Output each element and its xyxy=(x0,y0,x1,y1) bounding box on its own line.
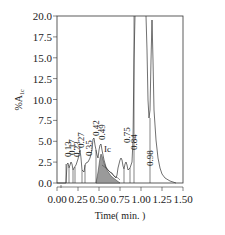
y-tick-5: 5.0 xyxy=(38,135,52,147)
x-tick-1: 1.00 xyxy=(131,193,151,205)
y-tick-20: 20.0 xyxy=(33,10,53,22)
x-tick-0-25: 0.25 xyxy=(68,193,88,205)
x-tick-1-5: 1.50 xyxy=(173,193,193,205)
x-tick-0-75: 0.75 xyxy=(110,193,130,205)
peak-label-0-35: 0.35 xyxy=(84,140,94,156)
x-axis-title: Time( min. ) xyxy=(95,210,145,222)
y-tick-7-5: 7.5 xyxy=(38,114,52,126)
peak-label-0-98: 0.98 xyxy=(145,150,155,166)
y-tick-12-5: 12.5 xyxy=(33,73,53,85)
x-tick-labels: 0.00 0.25 0.50 0.75 1.00 1.25 1.50 xyxy=(47,193,193,205)
x-tick-1-25: 1.25 xyxy=(152,193,172,205)
y-tick-labels: 20.0 17.5 15.0 12.5 10.0 7.5 5.0 2.5 0.0 xyxy=(33,10,53,189)
x-tick-0-5: 0.50 xyxy=(89,193,109,205)
shaded-a1c-peak xyxy=(96,154,120,183)
y-axis-title: %A1c xyxy=(13,89,25,111)
peak-label-0-49: 0.49 xyxy=(97,124,107,140)
x-tick-0: 0.00 xyxy=(47,193,67,205)
peak-label-0-84: 0.84 xyxy=(129,134,139,150)
svg-text:%A1c: %A1c xyxy=(13,89,25,111)
a1c-small-label: Ic xyxy=(104,144,111,154)
y-tick-17-5: 17.5 xyxy=(33,31,53,43)
y-tick-10: 10.0 xyxy=(33,94,53,106)
y-tick-15: 15.0 xyxy=(33,52,53,64)
y-axis xyxy=(53,16,57,183)
x-axis xyxy=(57,187,183,191)
chromatogram-chart: 20.0 17.5 15.0 12.5 10.0 7.5 5.0 2.5 0.0… xyxy=(0,0,225,235)
y-tick-0: 0.0 xyxy=(38,177,52,189)
y-tick-2-5: 2.5 xyxy=(38,156,52,168)
